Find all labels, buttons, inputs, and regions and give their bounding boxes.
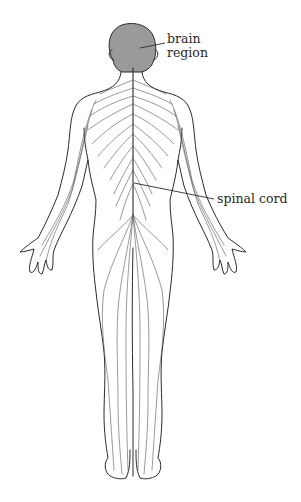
nervous-system-figure [0, 0, 301, 502]
body-outline-left [20, 72, 130, 479]
brain-label-line2: region [167, 46, 208, 60]
brain-region-label: brain region [167, 32, 208, 60]
head-brain-region [109, 24, 156, 72]
body-outline-right [136, 72, 246, 479]
spinal-cord-label: spinal cord [217, 192, 287, 206]
brain-label-line1: brain [167, 32, 208, 46]
